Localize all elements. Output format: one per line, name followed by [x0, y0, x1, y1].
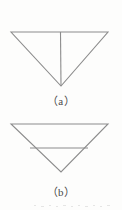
figure-page: （a） （b） [0, 0, 122, 210]
figure-a [0, 22, 122, 94]
figure-a-drawing [0, 22, 122, 94]
scan-noise-artifact [0, 203, 122, 209]
vertical-median-line-a [61, 32, 62, 86]
figure-a-caption: （a） [0, 92, 122, 108]
figure-b [0, 114, 122, 178]
figure-b-drawing [0, 114, 122, 178]
figure-b-caption: （b） [0, 183, 122, 199]
inverted-triangle-outline-a [11, 32, 108, 86]
